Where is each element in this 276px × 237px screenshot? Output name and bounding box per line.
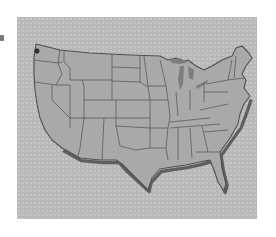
us-outline <box>34 44 252 191</box>
us-map <box>0 0 276 237</box>
location-marker-icon <box>35 49 39 53</box>
